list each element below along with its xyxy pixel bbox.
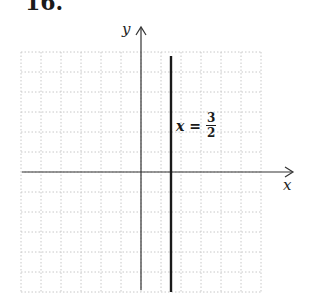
equation-label: x = 3 2 — [176, 112, 216, 139]
x-axis-label: x — [283, 176, 291, 194]
fraction-numerator: 3 — [206, 112, 216, 126]
y-axis-label: y — [122, 20, 130, 38]
equation-variable: x — [176, 118, 184, 134]
equals-sign: = — [189, 118, 201, 134]
coordinate-plane — [0, 0, 311, 305]
fraction: 3 2 — [206, 112, 216, 139]
axes — [22, 27, 293, 290]
fraction-denominator: 2 — [207, 126, 215, 139]
